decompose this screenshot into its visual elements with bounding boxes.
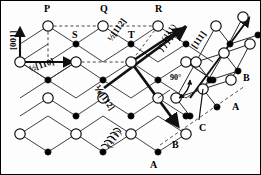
atom-filled [187,113,193,119]
atom-open [15,129,25,139]
atom-open [153,21,163,31]
atom-filled [227,41,233,47]
atom-filled [100,149,106,155]
vector-label-dir-001: [001] [9,31,18,51]
atom-open [71,129,81,139]
lattice-drawing [0,0,261,175]
atom-filled [128,113,134,119]
atom-open [245,39,255,49]
atom-open [71,57,81,67]
point-label-T: T [128,30,135,40]
crystallographic-lattice-diagram: PQRSTABCBA[001]½[110]½[112]⅙[112][111](1… [0,0,261,175]
atom-filled [100,77,106,83]
atom-filled [155,149,161,155]
atom-filled [73,41,79,47]
point-label-B1: B [243,73,250,83]
point-label-A2: A [150,160,157,170]
atom-open [238,12,248,22]
atom-nodes [15,12,261,155]
atom-open [219,48,229,58]
point-label-B2: B [172,140,179,150]
point-label-A1: A [232,102,239,112]
point-label-R: R [155,4,162,14]
atom-filled [128,41,134,47]
atom-filled [45,149,51,155]
point-label-S: S [72,30,78,40]
angle-label-angle-90: 90° [170,74,181,82]
atom-open [43,93,53,103]
atom-open [126,57,136,67]
point-label-P: P [44,4,50,14]
point-label-C1: C [199,123,206,133]
atom-open [15,57,25,67]
atom-open [211,21,221,31]
atom-filled [73,113,79,119]
atom-open [98,21,108,31]
atom-filled [45,77,51,83]
point-label-Q: Q [100,4,108,14]
atom-open [126,129,136,139]
atom-filled [207,77,213,83]
atom-filled [255,32,261,38]
atom-filled [155,77,161,83]
atom-open [43,21,53,31]
atom-open [181,57,191,67]
atom-open [191,57,201,67]
